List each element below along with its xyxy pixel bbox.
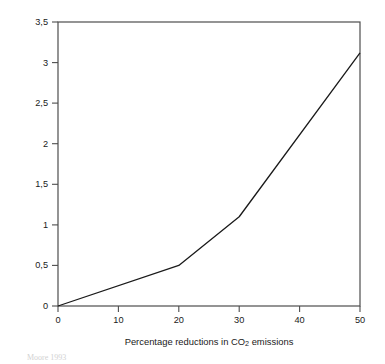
x-axis-ticks [58, 306, 360, 312]
x-tick-label-20: 20 [174, 315, 184, 325]
x-tick-label-30: 30 [234, 315, 244, 325]
y-axis-ticks [52, 22, 58, 306]
x-axis-title-suffix: emissions [249, 336, 293, 347]
x-tick-label-50: 50 [355, 315, 365, 325]
y-tick-label-2: 2 [20, 139, 48, 149]
y-tick-label-1-5: 1,5 [20, 179, 48, 189]
line-chart [0, 0, 385, 364]
y-tick-label-1: 1 [20, 220, 48, 230]
figure-container: 0 0,5 1 1,5 2 2,5 3 3,5 0 10 20 30 40 50… [0, 0, 385, 364]
plot-area-border [58, 22, 360, 306]
x-tick-label-0: 0 [55, 315, 60, 325]
x-tick-label-10: 10 [113, 315, 123, 325]
y-tick-label-3: 3 [20, 58, 48, 68]
y-tick-label-0-5: 0,5 [20, 260, 48, 270]
plot-frame [58, 22, 360, 306]
y-tick-label-3-5: 3,5 [20, 17, 48, 27]
x-axis-title: Percentage reductions in CO2 emissions [58, 336, 360, 348]
y-tick-label-0: 0 [20, 301, 48, 311]
y-tick-label-2-5: 2,5 [20, 98, 48, 108]
x-axis-title-prefix: Percentage reductions in CO [125, 336, 245, 347]
x-tick-label-40: 40 [294, 315, 304, 325]
source-note: Moore 1993 [27, 353, 66, 362]
